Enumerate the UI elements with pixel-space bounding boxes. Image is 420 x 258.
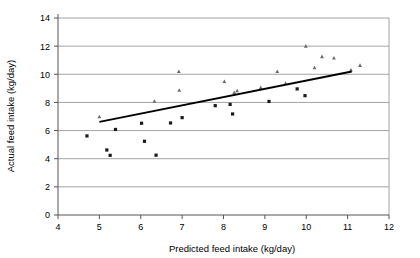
- gridlines-group: [58, 18, 389, 187]
- regression-line-group: [99, 71, 351, 121]
- y-tick-label-6: 6: [45, 126, 50, 136]
- regression-line: [99, 71, 351, 121]
- x-axis-group: [58, 215, 389, 219]
- data-point-square-12: [267, 100, 270, 103]
- data-point-square-0: [85, 134, 88, 137]
- y-tick-label-0: 0: [45, 210, 50, 220]
- x-tick-labels-group: 456789101112: [55, 222, 394, 232]
- plot-canvas: 02468101214 456789101112 Predicted feed …: [0, 0, 420, 258]
- x-tick-label-5: 5: [97, 222, 102, 232]
- data-point-triangle-5: [232, 90, 236, 94]
- scatter-chart-figure: 02468101214 456789101112 Predicted feed …: [0, 0, 420, 258]
- data-point-square-7: [169, 121, 172, 124]
- data-point-square-10: [229, 103, 232, 106]
- y-tick-label-2: 2: [45, 182, 50, 192]
- data-point-triangle-2: [177, 69, 181, 73]
- data-point-square-2: [109, 154, 112, 157]
- y-tick-label-4: 4: [45, 154, 50, 164]
- data-point-square-9: [214, 104, 217, 107]
- data-point-triangle-3: [177, 88, 181, 92]
- data-point-triangle-0: [97, 115, 101, 119]
- data-point-triangle-13: [332, 56, 336, 60]
- data-point-square-4: [140, 122, 143, 125]
- square-series-group: [85, 87, 306, 157]
- x-tick-label-6: 6: [138, 222, 143, 232]
- data-point-square-3: [114, 128, 117, 131]
- data-point-square-11: [231, 112, 234, 115]
- data-point-triangle-15: [358, 63, 362, 67]
- y-tick-label-12: 12: [40, 42, 50, 52]
- data-point-square-5: [143, 140, 146, 143]
- x-tick-label-4: 4: [55, 222, 60, 232]
- data-point-square-14: [303, 94, 306, 97]
- x-tick-label-10: 10: [301, 222, 311, 232]
- data-point-triangle-8: [275, 69, 279, 73]
- data-point-triangle-1: [153, 99, 157, 103]
- y-tick-label-8: 8: [45, 98, 50, 108]
- data-point-triangle-4: [222, 80, 226, 84]
- triangle-series-group: [97, 44, 361, 118]
- data-point-square-8: [181, 116, 184, 119]
- data-point-triangle-12: [320, 55, 324, 59]
- y-tick-label-10: 10: [40, 70, 50, 80]
- data-point-square-13: [296, 87, 299, 90]
- y-axis-group: [54, 14, 58, 215]
- x-axis-title: Predicted feed intake (kg/day): [169, 243, 295, 254]
- x-tick-label-12: 12: [384, 222, 394, 232]
- x-tick-label-9: 9: [262, 222, 267, 232]
- x-tick-label-11: 11: [343, 222, 352, 232]
- y-axis-title: Actual feed intake (kg/day): [5, 60, 16, 172]
- x-tick-label-8: 8: [221, 222, 226, 232]
- data-point-square-6: [154, 154, 157, 157]
- y-tick-labels-group: 02468101214: [40, 13, 50, 220]
- data-point-triangle-6: [235, 89, 239, 93]
- data-point-triangle-11: [313, 66, 317, 70]
- data-point-square-1: [105, 148, 108, 151]
- y-tick-label-14: 14: [40, 13, 50, 23]
- x-tick-label-7: 7: [180, 222, 185, 232]
